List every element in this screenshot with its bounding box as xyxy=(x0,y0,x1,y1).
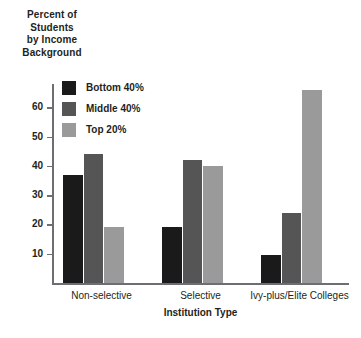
y-axis-title-line: Background xyxy=(4,47,100,60)
x-axis-title: Institution Type xyxy=(52,307,349,318)
legend-label: Middle 40% xyxy=(86,103,140,115)
bar[interactable] xyxy=(302,90,322,283)
y-axis-tick-label: 60 xyxy=(32,100,43,113)
y-axis-tick-label: 20 xyxy=(32,217,43,230)
bar[interactable] xyxy=(162,227,182,283)
legend-item[interactable]: Top 20% xyxy=(62,119,212,140)
y-axis-tick-label: 30 xyxy=(32,188,43,201)
legend-item[interactable]: Middle 40% xyxy=(62,98,212,119)
cropped-chart-title xyxy=(0,0,361,2)
y-axis-tick: 40 xyxy=(47,166,53,167)
bar[interactable] xyxy=(183,160,203,283)
y-axis-tick-label: 50 xyxy=(32,130,43,143)
legend-label: Bottom 40% xyxy=(86,82,144,94)
bar[interactable] xyxy=(63,175,83,283)
y-axis-tick: 60 xyxy=(47,107,53,108)
y-axis-tick: 10 xyxy=(47,254,53,255)
bar[interactable] xyxy=(84,154,104,283)
y-axis-tick: 20 xyxy=(47,224,53,225)
chart-legend: Bottom 40% Middle 40% Top 20% xyxy=(62,77,212,140)
y-axis-tick-label: 10 xyxy=(32,247,43,260)
x-axis-category-label: Ivy-plus/Elite Colleges xyxy=(230,290,361,302)
legend-swatch-middle40 xyxy=(62,102,76,116)
bar-chart-figure: Percent of Students by Income Background… xyxy=(0,0,361,338)
y-axis-title: Percent of Students by Income Background xyxy=(4,9,100,59)
y-axis-title-line: Students xyxy=(4,22,100,35)
y-axis-tick-label: 40 xyxy=(32,159,43,172)
legend-swatch-top20 xyxy=(62,123,76,137)
y-axis-tick: 50 xyxy=(47,137,53,138)
y-axis-tick: 30 xyxy=(47,195,53,196)
y-axis-title-line: by Income xyxy=(4,34,100,47)
bar[interactable] xyxy=(261,255,281,283)
y-axis-title-line: Percent of xyxy=(4,9,100,22)
legend-swatch-bottom40 xyxy=(62,81,76,95)
bar[interactable] xyxy=(203,166,223,283)
legend-item[interactable]: Bottom 40% xyxy=(62,77,212,98)
bar[interactable] xyxy=(282,213,302,283)
legend-label: Top 20% xyxy=(86,124,126,136)
x-axis-line xyxy=(52,283,349,285)
bar[interactable] xyxy=(104,227,124,283)
